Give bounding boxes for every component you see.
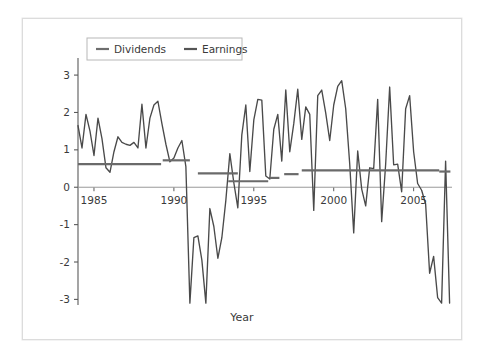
y-tick-label: -1 (60, 218, 70, 230)
legend-label-earnings: Earnings (202, 43, 248, 55)
legend-label-dividends: Dividends (114, 43, 166, 55)
y-tick-label: 3 (63, 69, 70, 81)
x-tick-label: 2000 (320, 194, 347, 206)
x-tick-label: 1995 (240, 194, 267, 206)
legend-group: DividendsEarnings (87, 38, 248, 60)
x-tick-label: 1985 (81, 194, 108, 206)
plot-area: -3-2-1012319851990199520002005 Dividends… (0, 0, 484, 359)
series-group (78, 81, 450, 303)
x-tick-label: 1990 (161, 194, 188, 206)
y-tick-label: 2 (63, 106, 70, 118)
y-tick-label: -3 (60, 293, 70, 305)
y-tick-label: 0 (63, 181, 70, 193)
earnings-line (78, 81, 450, 303)
chart-figure: Dollars per Share Year -3-2-101231985199… (0, 0, 484, 359)
x-tick-label: 2005 (400, 194, 427, 206)
y-tick-label: 1 (63, 143, 70, 155)
y-tick-label: -2 (60, 256, 70, 268)
